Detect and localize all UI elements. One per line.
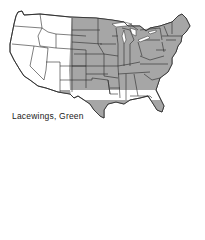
map-caption: Lacewings, Green [12,111,84,121]
